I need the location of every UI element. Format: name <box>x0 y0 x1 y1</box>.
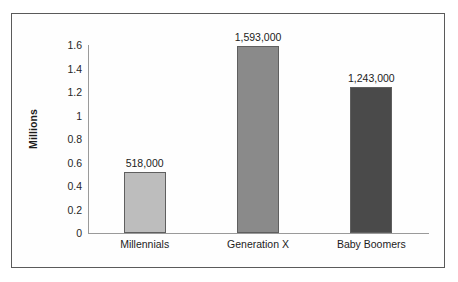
y-axis-tick-label: 1 <box>22 110 82 122</box>
bar-group: 518,000 <box>88 45 201 233</box>
bar-group: 1,243,000 <box>315 45 428 233</box>
bar-value-label: 518,000 <box>126 157 164 169</box>
y-axis-tick-labels: 1.61.41.210.80.60.40.20 <box>18 14 82 269</box>
x-axis-category-label: Millennials <box>88 238 201 250</box>
bar[interactable] <box>124 172 166 233</box>
y-axis-tick-label: 1.2 <box>22 86 82 98</box>
x-axis-category-label: Generation X <box>201 238 314 250</box>
bar[interactable] <box>237 46 279 233</box>
y-axis-tick-label: 0.2 <box>22 204 82 216</box>
y-axis-tick-label: 0.4 <box>22 180 82 192</box>
bar[interactable] <box>350 87 392 233</box>
figure-frame: Millions 1.61.41.210.80.60.40.20 518,000… <box>11 13 445 268</box>
y-axis-tick-label: 0.6 <box>22 157 82 169</box>
bar-value-label: 1,593,000 <box>235 31 282 43</box>
x-axis-line <box>88 233 429 234</box>
bar-value-label: 1,243,000 <box>348 72 395 84</box>
y-axis-tick-label: 1.6 <box>22 39 82 51</box>
bar-group: 1,593,000 <box>201 45 314 233</box>
x-axis-category-label: Baby Boomers <box>315 238 428 250</box>
y-axis-tick-label: 0.8 <box>22 133 82 145</box>
y-axis-tick-label: 0 <box>22 227 82 239</box>
plot-area: 518,0001,593,0001,243,000 <box>88 45 428 233</box>
y-axis-tick-label: 1.4 <box>22 63 82 75</box>
bar-chart: Millions 1.61.41.210.80.60.40.20 518,000… <box>12 14 446 269</box>
